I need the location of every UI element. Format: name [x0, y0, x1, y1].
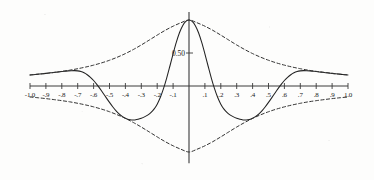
x-tick-label: -.8: [58, 91, 65, 99]
axes-group: [30, 12, 348, 163]
x-tick-label: -1.0: [25, 91, 35, 99]
y-tick-label: 0.50: [172, 49, 185, 58]
figure-canvas: -1.0-.9-.8-.7-.6-.5-.4-.3-.2-.1.1.2.3.4.…: [0, 0, 374, 180]
x-tick-label: .2: [218, 91, 223, 99]
chart-plot: [0, 0, 374, 180]
x-tick-label: -.7: [74, 91, 81, 99]
x-tick-label: .1: [202, 91, 207, 99]
x-tick-label: .8: [314, 91, 319, 99]
x-tick-label: -.4: [122, 91, 129, 99]
x-tick-label: -.6: [90, 91, 97, 99]
x-tick-label: .5: [266, 91, 271, 99]
x-tick-label: -.1: [170, 91, 177, 99]
x-tick-label: -.9: [42, 91, 49, 99]
x-tick-label: .6: [282, 91, 287, 99]
x-tick-label: -.5: [106, 91, 113, 99]
x-tick-label: .4: [250, 91, 255, 99]
x-tick-label: -.3: [138, 91, 145, 99]
x-tick-label: -.2: [154, 91, 161, 99]
x-tick-label: .9: [330, 91, 335, 99]
x-tick-label: .7: [298, 91, 303, 99]
x-tick-label: 1.0: [344, 91, 352, 99]
x-tick-label: .3: [234, 91, 239, 99]
